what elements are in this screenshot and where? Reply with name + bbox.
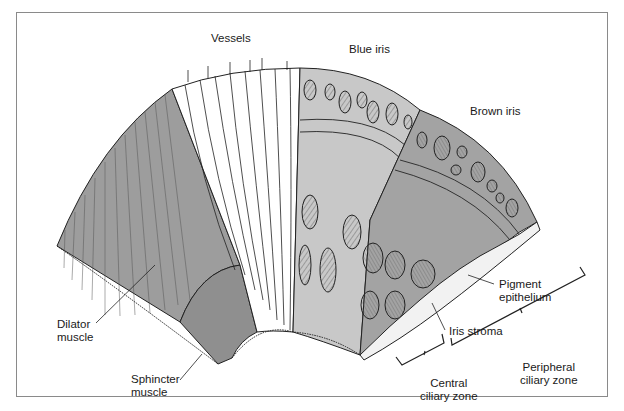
- label-brown-iris: Brown iris: [470, 105, 520, 118]
- label-sphincter-line2: muscle: [131, 386, 180, 399]
- label-blue-iris: Blue iris: [349, 43, 390, 56]
- label-central-line2: ciliary zone: [420, 390, 478, 403]
- label-central-ciliary-zone: Central ciliary zone: [420, 377, 478, 403]
- label-dilator-muscle: Dilator muscle: [57, 318, 93, 344]
- label-dilator-line1: Dilator: [57, 318, 93, 331]
- label-pigment-line2: epithelium: [499, 291, 551, 304]
- label-sphincter-muscle: Sphincter muscle: [131, 373, 180, 399]
- iris-diagram: [0, 0, 624, 411]
- label-pigment-epithelium: Pigment epithelium: [499, 278, 551, 304]
- label-peripheral-line1: Peripheral: [520, 361, 578, 374]
- label-central-line1: Central: [420, 377, 478, 390]
- label-dilator-line2: muscle: [57, 331, 93, 344]
- label-peripheral-ciliary-zone: Peripheral ciliary zone: [520, 361, 578, 387]
- label-sphincter-line1: Sphincter: [131, 373, 180, 386]
- label-vessels: Vessels: [211, 32, 251, 45]
- label-iris-stroma: Iris stroma: [449, 325, 503, 338]
- sphincter-leader: [180, 354, 202, 380]
- label-pigment-line1: Pigment: [499, 278, 551, 291]
- label-peripheral-line2: ciliary zone: [520, 374, 578, 387]
